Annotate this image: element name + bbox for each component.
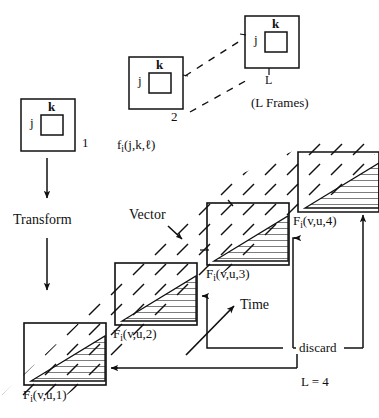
feedback-rail-b4-to-b3 xyxy=(293,238,297,348)
discard-label: discard xyxy=(296,341,340,354)
figure-canvas: k j 1 k j 2 k j L (L Frames) fi(j,k,ℓ) T… xyxy=(0,0,379,418)
capacity-label: L = 4 xyxy=(301,375,329,388)
feedback-rail-b3-to-b2 xyxy=(203,296,283,348)
feedback-routing-layer xyxy=(0,0,379,418)
